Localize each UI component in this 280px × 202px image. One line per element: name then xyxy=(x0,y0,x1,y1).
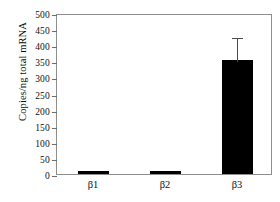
y-tick-mark xyxy=(52,63,57,64)
y-tick-label: 100 xyxy=(35,139,50,149)
plot-area: 050100150200250300350400450500 β1β2β3 xyxy=(56,14,272,175)
y-tick-mark xyxy=(52,96,57,97)
y-tick-label: 200 xyxy=(35,107,50,117)
error-bar-line xyxy=(237,38,238,62)
x-tick-label: β2 xyxy=(160,179,171,190)
y-tick-label: 50 xyxy=(40,155,50,165)
bar xyxy=(222,60,253,174)
error-bar-cap xyxy=(232,38,243,39)
figure: Copies/ng total mRNA 0501001502002503003… xyxy=(0,0,280,202)
bar xyxy=(150,171,181,174)
y-tick-label: 250 xyxy=(35,91,50,101)
y-tick-label: 350 xyxy=(35,58,50,68)
y-tick-label: 400 xyxy=(35,42,50,52)
y-tick-label: 300 xyxy=(35,74,50,84)
y-axis-title: Copies/ng total mRNA xyxy=(17,2,28,142)
y-tick-label: 450 xyxy=(35,26,50,36)
y-tick-mark xyxy=(52,79,57,80)
y-tick-mark xyxy=(52,144,57,145)
y-tick-mark xyxy=(52,160,57,161)
y-tick-label: 500 xyxy=(35,10,50,20)
y-tick-mark xyxy=(52,47,57,48)
y-tick-mark xyxy=(52,15,57,16)
y-tick-label: 0 xyxy=(45,171,50,181)
y-tick-mark xyxy=(52,176,57,177)
bar xyxy=(78,171,109,174)
y-tick-mark xyxy=(52,31,57,32)
x-tick-label: β3 xyxy=(232,179,243,190)
y-tick-mark xyxy=(52,112,57,113)
x-tick-label: β1 xyxy=(88,179,99,190)
y-tick-mark xyxy=(52,128,57,129)
y-tick-label: 150 xyxy=(35,123,50,133)
